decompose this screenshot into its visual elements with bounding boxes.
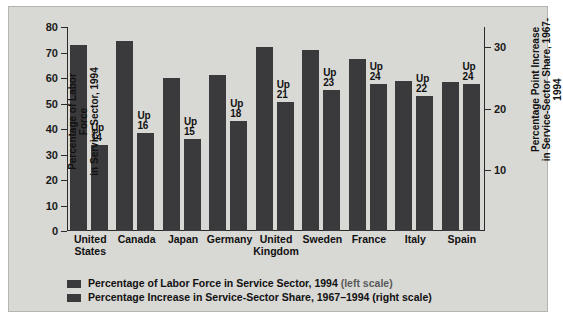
bar-series2 — [137, 133, 154, 231]
bar-value-label: Up23 — [323, 68, 336, 88]
bar-series1 — [163, 78, 180, 231]
left-tick-label: 10 — [46, 201, 58, 211]
plot-area: 01020304050607080 102030 Up14Up16Up15Up1… — [67, 27, 485, 231]
bar-series2 — [370, 84, 387, 231]
category-label: Italy — [392, 234, 438, 246]
category-label: Germany — [206, 234, 252, 246]
bar-value-label: Up22 — [416, 74, 429, 94]
right-tick-mark — [485, 170, 491, 171]
left-tick-label: 70 — [46, 48, 58, 58]
legend-swatch-icon-series2 — [67, 294, 81, 302]
bar-group: Up21 — [256, 27, 297, 231]
bar-series1 — [256, 47, 273, 231]
category-labels: United StatesCanadaJapanGermanyUnited Ki… — [67, 234, 485, 266]
right-tick-label: 10 — [494, 165, 506, 175]
legend-item-series2: Percentage Increase in Service-Sector Sh… — [67, 291, 507, 305]
left-tick-label: 30 — [46, 150, 58, 160]
left-tick-label: 60 — [46, 73, 58, 83]
bar-series2 — [277, 102, 294, 231]
bar-group: Up24 — [442, 27, 483, 231]
bar-value-label: Up15 — [184, 117, 197, 137]
bar-series1 — [116, 41, 133, 231]
bar-series1 — [442, 82, 459, 231]
category-label: Japan — [160, 234, 206, 246]
bar-value-label: Up16 — [137, 111, 150, 131]
category-label: United Kingdom — [253, 234, 299, 257]
bar-group: Up15 — [163, 27, 204, 231]
category-label: United States — [67, 234, 113, 257]
category-label: France — [346, 234, 392, 246]
bar-value-label: Up24 — [463, 62, 476, 82]
bar-value-label: Up21 — [277, 80, 290, 100]
legend-label-series1: Percentage of Labor Force in Service Sec… — [88, 277, 393, 290]
category-label: Spain — [439, 234, 485, 246]
category-label: Sweden — [299, 234, 345, 246]
right-tick-label: 20 — [494, 104, 506, 114]
chart-figure: 01020304050607080 102030 Up14Up16Up15Up1… — [8, 6, 548, 312]
bar-series2 — [230, 121, 247, 231]
bar-series2 — [416, 96, 433, 231]
bar-groups: Up14Up16Up15Up18Up21Up23Up24Up22Up24 — [67, 27, 485, 231]
bar-series2 — [184, 139, 201, 231]
bar-series2 — [323, 90, 340, 231]
bar-series1 — [209, 75, 226, 231]
bar-group: Up24 — [349, 27, 390, 231]
legend-item-series1: Percentage of Labor Force in Service Sec… — [67, 277, 507, 291]
right-tick-label: 30 — [494, 42, 506, 52]
bar-series1 — [349, 59, 366, 231]
chart-legend: Percentage of Labor Force in Service Sec… — [67, 277, 507, 305]
left-tick-label: 0 — [52, 226, 58, 236]
left-tick-label: 50 — [46, 99, 58, 109]
left-tick-label: 20 — [46, 175, 58, 185]
bar-group: Up16 — [116, 27, 157, 231]
legend-swatch-icon-series1 — [67, 280, 81, 288]
bar-group: Up22 — [395, 27, 436, 231]
right-tick-mark — [485, 47, 491, 48]
bar-series1 — [302, 50, 319, 231]
bar-group: Up23 — [302, 27, 343, 231]
bar-series2 — [463, 84, 480, 231]
bar-value-label: Up24 — [370, 62, 383, 82]
right-tick-mark — [485, 109, 491, 110]
left-tick-label: 80 — [46, 22, 58, 32]
bar-group: Up18 — [209, 27, 250, 231]
left-axis-title: Percentage of Labor Force in Service Sec… — [67, 62, 100, 182]
left-tick-mark — [61, 231, 67, 232]
bar-value-label: Up18 — [230, 99, 243, 119]
bar-series1 — [395, 81, 412, 231]
legend-label-series2: Percentage Increase in Service-Sector Sh… — [88, 291, 432, 304]
right-axis-title: Percentage Point Increase in Service-Sec… — [530, 15, 563, 165]
left-tick-label: 40 — [46, 124, 58, 134]
category-label: Canada — [113, 234, 159, 246]
